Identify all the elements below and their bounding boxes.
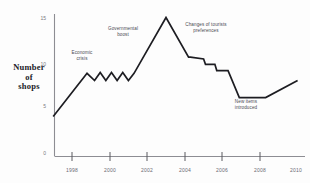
- x-tick-label-2004: 2004: [179, 167, 191, 173]
- x-tick-label-1998: 1998: [66, 167, 78, 173]
- annotation-governmental-boost: Governmental boost: [99, 26, 147, 37]
- annotation-new-items: New items introduced: [219, 99, 273, 110]
- x-tick-label-2000: 2000: [104, 167, 116, 173]
- annotation-economic-crisis-line-2: crisis: [60, 56, 104, 62]
- annotation-new-items-line-2: introduced: [219, 105, 273, 111]
- annotation-tourist-preferences: Changes of tourists preferences: [172, 22, 240, 33]
- annotation-economic-crisis: Economic crisis: [60, 50, 104, 61]
- y-tick-label-0: 0: [43, 150, 46, 156]
- x-tick-label-2010: 2010: [290, 167, 302, 173]
- x-axis: 1998 2000 2002 2004 2006 2008 2010: [55, 152, 306, 173]
- annotation-governmental-boost-line-2: boost: [99, 32, 147, 38]
- y-tick-label-5: 5: [43, 103, 46, 109]
- x-tick-label-2002: 2002: [141, 167, 153, 173]
- y-axis-title: Number of shops: [6, 63, 52, 92]
- y-tick-label-15: 15: [40, 15, 46, 21]
- chart-canvas: 15 10 5 0 1998 2000 2002 2004 2006 2008 …: [0, 0, 310, 183]
- y-axis-title-line-3: shops: [6, 82, 52, 92]
- x-tick-label-2006: 2006: [216, 167, 228, 173]
- annotation-tourist-preferences-line-2: preferences: [172, 28, 240, 34]
- x-tick-label-2008: 2008: [254, 167, 266, 173]
- line-chart: 15 10 5 0 1998 2000 2002 2004 2006 2008 …: [0, 0, 310, 183]
